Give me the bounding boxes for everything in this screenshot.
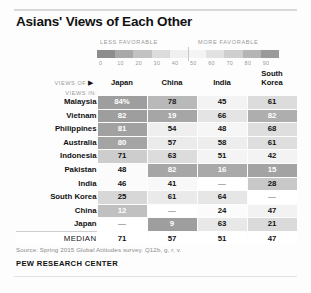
row-label-pakistan: Pakistan — [16, 163, 97, 177]
infographic-card: Asians' Views of Each Other LESS FAVORAB… — [0, 0, 311, 293]
cell-vietnam-south-korea: 82 — [247, 109, 297, 123]
legend-tick-10: 10 — [117, 60, 124, 66]
column-header-south-korea: SouthKorea — [247, 70, 297, 90]
row-label-south-korea: South Korea — [16, 191, 97, 205]
legend-gradient-bar — [97, 50, 279, 58]
brand-label: PEW RESEARCH CENTER — [16, 259, 118, 268]
median-value-china: 57 — [147, 231, 197, 245]
cell-indonesia-south-korea: 42 — [247, 150, 297, 164]
cell-china-south-korea: 47 — [247, 204, 297, 218]
cell-pakistan-south-korea: 15 — [247, 163, 297, 177]
legend-swatch-6 — [206, 50, 224, 58]
row-label-japan: Japan — [16, 218, 97, 232]
cell-pakistan-japan: 48 — [97, 163, 147, 177]
table-header-row: VIEWS OF ▶ Japan China India SouthKorea — [16, 70, 297, 90]
cell-japan-india: 63 — [197, 218, 247, 232]
table-row: China12—2447 — [16, 204, 297, 218]
cell-india-south-korea: 28 — [247, 177, 297, 191]
cell-vietnam-china: 19 — [147, 109, 197, 123]
legend-tick-50: 50 — [190, 60, 197, 66]
cell-japan-south-korea: 21 — [247, 218, 297, 232]
cell-australia-india: 58 — [197, 136, 247, 150]
row-label-australia: Australia — [16, 136, 97, 150]
corner-label-text: VIEWS OF — [55, 80, 87, 86]
bottom-divider — [14, 276, 297, 277]
legend-tick-70: 70 — [226, 60, 233, 66]
cell-australia-china: 57 — [147, 136, 197, 150]
legend-swatch-8 — [243, 50, 261, 58]
median-value-japan: 71 — [97, 231, 147, 245]
cell-japan-china: 9 — [147, 218, 197, 232]
cell-china-japan: 12 — [97, 204, 147, 218]
median-value-india: 51 — [197, 231, 247, 245]
table-row: Malaysia84%784561 — [16, 96, 297, 109]
legend-tick-20: 20 — [135, 60, 142, 66]
legend-tick-90: 90 — [263, 60, 270, 66]
table-row: Vietnam82196682 — [16, 109, 297, 123]
cell-australia-south-korea: 61 — [247, 136, 297, 150]
cell-india-india: — — [197, 177, 247, 191]
cell-indonesia-india: 51 — [197, 150, 247, 164]
row-label-malaysia: Malaysia — [16, 96, 97, 109]
row-label-vietnam: Vietnam — [16, 109, 97, 123]
cell-vietnam-japan: 82 — [97, 109, 147, 123]
cell-pakistan-india: 16 — [197, 163, 247, 177]
cell-malaysia-japan: 84% — [97, 96, 147, 109]
legend-tick-0: 0 — [99, 60, 102, 66]
legend-swatch-7 — [224, 50, 242, 58]
legend-tick-40: 40 — [172, 60, 179, 66]
row-label-india: India — [16, 177, 97, 191]
table-row: South Korea256164— — [16, 191, 297, 205]
table-body: Malaysia84%784561Vietnam82196682Philippi… — [16, 96, 297, 245]
cell-japan-japan: — — [97, 218, 147, 232]
cell-indonesia-china: 63 — [147, 150, 197, 164]
cell-south-korea-india: 64 — [197, 191, 247, 205]
page-title: Asians' Views of Each Other — [16, 14, 192, 29]
cell-vietnam-india: 66 — [197, 109, 247, 123]
cell-philippines-japan: 81 — [97, 123, 147, 137]
cell-india-china: 41 — [147, 177, 197, 191]
legend-swatch-0 — [97, 50, 115, 58]
cell-australia-japan: 80 — [97, 136, 147, 150]
table-row: Indonesia71635142 — [16, 150, 297, 164]
arrow-right-icon: ▶ — [88, 79, 94, 86]
cell-south-korea-china: 61 — [147, 191, 197, 205]
top-divider — [14, 9, 297, 11]
table-row: India4641—28 — [16, 177, 297, 191]
legend: LESS FAVORABLE MORE FAVORABLE 0102030405… — [97, 39, 279, 69]
median-row: MEDIAN71575147 — [16, 231, 297, 245]
cell-china-india: 24 — [197, 204, 247, 218]
heatmap-table: VIEWS OF ▶ Japan China India SouthKorea … — [16, 70, 298, 246]
column-header-india: India — [197, 70, 247, 90]
legend-swatch-5 — [188, 50, 206, 58]
legend-less-favorable-label: LESS FAVORABLE — [100, 39, 158, 45]
column-header-china: China — [147, 70, 197, 90]
cell-philippines-india: 48 — [197, 123, 247, 137]
cell-malaysia-south-korea: 61 — [247, 96, 297, 109]
legend-swatch-1 — [115, 50, 133, 58]
table-row: Philippines81544868 — [16, 123, 297, 137]
cell-philippines-south-korea: 68 — [247, 123, 297, 137]
cell-philippines-china: 54 — [147, 123, 197, 137]
cell-india-japan: 46 — [97, 177, 147, 191]
legend-tick-labels: 0102030405060708090 — [97, 60, 279, 69]
median-value-south-korea: 47 — [247, 231, 297, 245]
row-label-china: China — [16, 204, 97, 218]
cell-china-china: — — [147, 204, 197, 218]
table-row: Pakistan48821615 — [16, 163, 297, 177]
cell-south-korea-japan: 25 — [97, 191, 147, 205]
source-note: Source: Spring 2015 Global Attitudes sur… — [16, 246, 181, 253]
row-label-philippines: Philippines — [16, 123, 97, 137]
legend-tick-30: 30 — [154, 60, 161, 66]
column-header-japan: Japan — [97, 70, 147, 90]
legend-midpoint-divider — [188, 47, 189, 61]
cell-malaysia-china: 78 — [147, 96, 197, 109]
legend-swatch-3 — [152, 50, 170, 58]
cell-malaysia-india: 45 — [197, 96, 247, 109]
legend-tick-80: 80 — [245, 60, 252, 66]
median-label: MEDIAN — [16, 231, 97, 245]
table-row: Japan—96321 — [16, 218, 297, 232]
corner-views-of-label: VIEWS OF ▶ — [16, 70, 97, 90]
legend-tick-60: 60 — [208, 60, 215, 66]
cell-indonesia-japan: 71 — [97, 150, 147, 164]
